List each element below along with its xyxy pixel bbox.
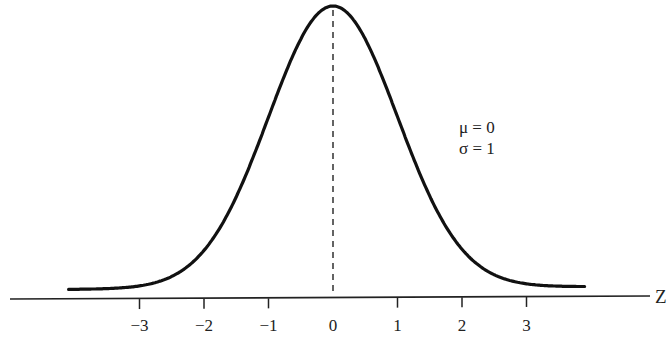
sigma-label: σ = 1 bbox=[459, 139, 495, 158]
x-tick-label: −1 bbox=[259, 316, 277, 335]
x-tick-label: 1 bbox=[393, 316, 402, 335]
x-tick-labels: −3−2−10123 bbox=[130, 316, 530, 335]
chart-canvas: −3−2−10123 Z μ = 0 σ = 1 bbox=[0, 0, 671, 350]
x-tick-label: −3 bbox=[130, 316, 148, 335]
mu-label: μ = 0 bbox=[459, 118, 495, 137]
x-tick-label: −2 bbox=[195, 316, 213, 335]
density-curve bbox=[69, 6, 585, 289]
x-tick-label: 3 bbox=[522, 316, 531, 335]
x-axis bbox=[10, 296, 650, 299]
x-tick-label: 0 bbox=[329, 316, 338, 335]
axis-label-z: Z bbox=[655, 286, 667, 307]
normal-distribution-chart: −3−2−10123 Z μ = 0 σ = 1 bbox=[0, 0, 671, 350]
x-tick-label: 2 bbox=[458, 316, 467, 335]
